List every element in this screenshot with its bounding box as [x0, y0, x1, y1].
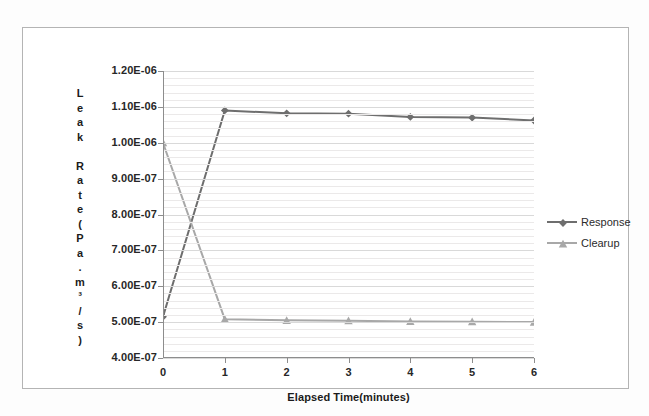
legend-swatch	[547, 237, 577, 249]
legend-item-response[interactable]: Response	[547, 211, 631, 232]
y-axis-title-char: ³	[71, 289, 89, 304]
y-axis-tick-label: 1.20E-06	[95, 64, 157, 76]
x-axis-tick-label: 6	[524, 366, 544, 378]
y-axis-title-char: )	[71, 333, 89, 348]
y-axis-tick-label: 8.00E-07	[95, 208, 157, 220]
y-axis-title-char: R	[71, 159, 89, 174]
x-axis-tick-mark	[472, 358, 473, 363]
legend-swatch	[547, 216, 577, 228]
y-axis-title-char: a	[71, 246, 89, 261]
legend-label: Response	[581, 216, 631, 228]
chart-figure-frame: Leak Rate(Pa.m³/s) 1.20E-061.10E-061.00E…	[22, 27, 629, 389]
x-axis-tick-mark	[349, 358, 350, 363]
y-axis-title-char	[71, 144, 89, 159]
triangle-marker-icon	[558, 239, 568, 249]
y-axis-title-char: (	[71, 217, 89, 232]
x-axis-tick-label: 0	[153, 366, 173, 378]
x-axis-tick-label: 2	[277, 366, 297, 378]
y-axis-tick-label: 1.10E-06	[95, 100, 157, 112]
y-axis-title-char: a	[71, 173, 89, 188]
x-axis-tick-mark	[225, 358, 226, 363]
y-axis-title-char: a	[71, 115, 89, 130]
y-axis-title-char: k	[71, 130, 89, 145]
page-background: Leak Rate(Pa.m³/s) 1.20E-061.10E-061.00E…	[0, 0, 649, 416]
x-axis-tick-label: 3	[339, 366, 359, 378]
y-axis-tick-label: 4.00E-07	[95, 351, 157, 363]
x-axis-tick-label: 1	[215, 366, 235, 378]
y-axis-tick-label: 5.00E-07	[95, 315, 157, 327]
x-axis-tick-mark	[410, 358, 411, 363]
y-axis-title-char: L	[71, 86, 89, 101]
y-axis-title-char: .	[71, 260, 89, 275]
y-axis-title-char: P	[71, 231, 89, 246]
y-axis-tick-label: 6.00E-07	[95, 279, 157, 291]
y-axis-tick-label: 1.00E-06	[95, 136, 157, 148]
y-axis-title-char: e	[71, 101, 89, 116]
legend-item-clearup[interactable]: Clearup	[547, 232, 631, 253]
plot-area	[163, 71, 534, 358]
y-axis-title-char: /	[71, 304, 89, 319]
y-axis-title: Leak Rate(Pa.m³/s)	[71, 86, 89, 347]
x-axis-title: Elapsed Time(minutes)	[163, 391, 534, 403]
chart-legend: ResponseClearup	[547, 211, 631, 253]
diamond-marker-icon	[558, 218, 568, 228]
y-axis-tick-label: 7.00E-07	[95, 243, 157, 255]
y-axis-title-char: m	[71, 275, 89, 290]
plot-axes-frame	[163, 71, 534, 358]
x-axis-tick-mark	[287, 358, 288, 363]
legend-label: Clearup	[581, 237, 620, 249]
x-axis-tick-label: 4	[400, 366, 420, 378]
x-axis-tick-mark	[534, 358, 535, 363]
y-axis-title-char: e	[71, 202, 89, 217]
y-axis-title-char: t	[71, 188, 89, 203]
x-axis-tick-label: 5	[462, 366, 482, 378]
y-axis-tick-label: 9.00E-07	[95, 172, 157, 184]
y-axis-title-char: s	[71, 318, 89, 333]
